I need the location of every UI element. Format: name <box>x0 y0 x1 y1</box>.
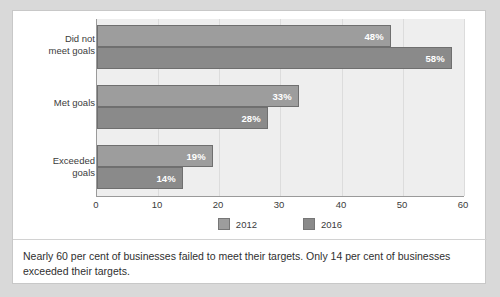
bar-2016-did-not-meet-goals[interactable]: 58% <box>97 47 452 69</box>
category-label-exceeded-goals: Exceeded goals <box>21 155 95 178</box>
legend-label: 2012 <box>236 219 257 230</box>
xtick-10: 10 <box>152 199 163 210</box>
chart-legend: 2012 2016 <box>96 216 464 232</box>
bar-2012-exceeded-goals[interactable]: 19% <box>97 145 213 167</box>
bar-value-label: 19% <box>186 151 212 162</box>
bar-group-did-not-meet-goals: 48% 58% <box>97 25 464 69</box>
bar-value-label: 58% <box>425 53 451 64</box>
category-label-met-goals: Met goals <box>21 97 95 109</box>
bar-value-label: 14% <box>156 173 182 184</box>
chart-card: Did not meet goals Met goals Exceeded go… <box>12 10 486 284</box>
legend-swatch-icon <box>303 218 315 230</box>
xtick-20: 20 <box>213 199 224 210</box>
bar-2016-met-goals[interactable]: 28% <box>97 107 268 129</box>
plot-area: 48% 58% 33% 28% 19% 14% <box>96 19 464 197</box>
bar-value-label: 48% <box>364 31 390 42</box>
legend-label: 2016 <box>321 219 342 230</box>
gridline-60 <box>464 19 465 196</box>
bar-2012-met-goals[interactable]: 33% <box>97 85 299 107</box>
category-label-did-not-meet-goals: Did not meet goals <box>21 33 95 56</box>
value-axis: 0 10 20 30 40 50 60 <box>96 199 464 213</box>
caption-divider <box>13 239 487 240</box>
bar-2016-exceeded-goals[interactable]: 14% <box>97 167 183 189</box>
bar-chart: Did not meet goals Met goals Exceeded go… <box>13 11 487 237</box>
xtick-50: 50 <box>397 199 408 210</box>
bar-group-met-goals: 33% 28% <box>97 85 464 129</box>
xtick-30: 30 <box>274 199 285 210</box>
xtick-40: 40 <box>336 199 347 210</box>
chart-caption: Nearly 60 per cent of businesses failed … <box>23 249 477 279</box>
xtick-60: 60 <box>458 199 469 210</box>
bar-2012-did-not-meet-goals[interactable]: 48% <box>97 25 391 47</box>
xtick-0: 0 <box>93 199 98 210</box>
legend-swatch-icon <box>218 218 230 230</box>
legend-item-2016[interactable]: 2016 <box>303 218 342 230</box>
legend-item-2012[interactable]: 2012 <box>218 218 257 230</box>
category-axis: Did not meet goals Met goals Exceeded go… <box>17 11 95 197</box>
bar-value-label: 33% <box>272 91 298 102</box>
bar-value-label: 28% <box>241 113 267 124</box>
bar-group-exceeded-goals: 19% 14% <box>97 145 464 189</box>
